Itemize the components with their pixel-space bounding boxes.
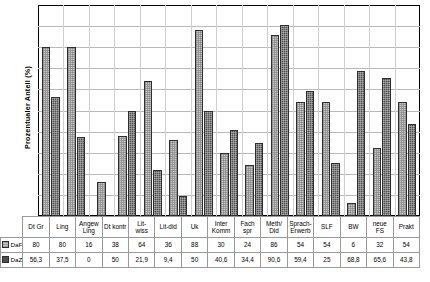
plot-area: 0102030405060708090100 [38, 5, 420, 216]
table-body: DaF (n=50)80801638643688302486545463254D… [1, 238, 420, 268]
table-category-header: Ling [49, 217, 75, 238]
table-category-header: Prakt [393, 217, 419, 238]
bar-group [140, 5, 165, 216]
bar [220, 153, 229, 216]
table-cell: 32 [367, 238, 393, 253]
bar [255, 143, 264, 216]
table-cell: 54 [314, 238, 340, 253]
table-header-row: Dt GrLingAngewLingDt kontrLit-wissLit-di… [1, 217, 420, 238]
bar-group [165, 5, 190, 216]
bar-group [318, 5, 343, 216]
table-cell: 86 [261, 238, 287, 253]
table-category-header-line: Sprach- [288, 220, 313, 227]
data-table: Dt GrLingAngewLingDt kontrLit-wissLit-di… [0, 216, 420, 268]
table-category-header: SLF [314, 217, 340, 238]
table-category-header: AngewLing [76, 217, 102, 238]
table-category-header-line: Prakt [394, 223, 419, 230]
bar [77, 137, 86, 216]
legend-entry: DaZ (n=32) [1, 253, 23, 268]
table-cell: 88 [181, 238, 207, 253]
table-cell: 68,8 [340, 253, 366, 268]
table-category-header-line: BW [341, 223, 366, 230]
table-category-header-line: Angew [76, 220, 101, 227]
bar [144, 81, 153, 216]
bar-group [369, 5, 394, 216]
table-category-header-line: Inter [208, 220, 233, 227]
table-category-header-line: Erwerb [288, 227, 313, 234]
legend-label: DaZ (n=32) [11, 256, 23, 263]
bar [230, 130, 239, 216]
bar-group [114, 5, 139, 216]
table-cell: 43,8 [393, 253, 419, 268]
table-cell: 50 [181, 253, 207, 268]
table-cell: 0 [76, 253, 102, 268]
table-category-header: InterKomm [208, 217, 234, 238]
table-cell: 59,4 [287, 253, 313, 268]
bar [169, 140, 178, 216]
table-category-header-line: neue [367, 220, 392, 227]
table-cell: 37,5 [49, 253, 75, 268]
bar-group [242, 5, 267, 216]
bar [179, 196, 188, 216]
bar [398, 102, 407, 216]
table-category-header-line: Ling [50, 223, 75, 230]
table-cell: 25 [314, 253, 340, 268]
table-category-header-line: Lit-did [155, 223, 180, 230]
table-cell: 21,9 [129, 253, 155, 268]
table-row: DaF (n=50)80801638643688302486545463254 [1, 238, 420, 253]
table-category-header: Sprach-Erwerb [287, 217, 313, 238]
bar [322, 102, 331, 216]
table-cell: 80 [49, 238, 75, 253]
table-category-header: neueFS [367, 217, 393, 238]
table-cell: 24 [234, 238, 260, 253]
bar [357, 71, 366, 216]
table-category-header-line: Meth/ [261, 220, 286, 227]
table-cell: 40,6 [208, 253, 234, 268]
table-cell: 54 [393, 238, 419, 253]
legend-swatch [2, 241, 9, 248]
table-category-header-line: Komm [208, 227, 233, 234]
table-cell: 9,4 [155, 253, 181, 268]
table-cell: 6 [340, 238, 366, 253]
bar-group [89, 5, 114, 216]
table-category-header-line: Dt Gr [23, 223, 48, 230]
bar [153, 170, 162, 216]
table-category-header-line: wiss [129, 227, 154, 234]
bar [128, 111, 137, 217]
table-category-header-line: FS [367, 227, 392, 234]
table-category-header-line: spr [235, 227, 260, 234]
table-category-header: Meth/Did [261, 217, 287, 238]
table-category-header-line: Did [261, 227, 286, 234]
bar-group [395, 5, 420, 216]
table-cell: 16 [76, 238, 102, 253]
table-row: DaZ (n=32)56,337,505021,99,45040,634,490… [1, 253, 420, 268]
table-category-header-line: Lit- [129, 220, 154, 227]
bar [347, 203, 356, 216]
bar-group [191, 5, 216, 216]
table-category-header: Fachspr [234, 217, 260, 238]
bar [195, 30, 204, 216]
bar-series-container [38, 5, 420, 216]
bar [245, 165, 254, 216]
table-category-header: Dt Gr [23, 217, 49, 238]
bar [51, 97, 60, 216]
bar [373, 148, 382, 216]
legend-label: DaF (n=50) [11, 241, 23, 248]
bar-group [344, 5, 369, 216]
bar [296, 102, 305, 216]
bar [67, 47, 76, 216]
table-category-header: Dt kontr [102, 217, 128, 238]
bar [97, 182, 106, 216]
table-category-header-line: Ling [76, 227, 101, 234]
table-header: Dt GrLingAngewLingDt kontrLit-wissLit-di… [1, 217, 420, 238]
table-category-header: Lit-wiss [129, 217, 155, 238]
table-corner-cell [1, 217, 23, 238]
table-cell: 36 [155, 238, 181, 253]
table-category-header: Uk [181, 217, 207, 238]
table-cell: 38 [102, 238, 128, 253]
table-cell: 56,3 [23, 253, 49, 268]
table-cell: 30 [208, 238, 234, 253]
bar-group [38, 5, 63, 216]
bar-group [267, 5, 292, 216]
table-cell: 64 [129, 238, 155, 253]
